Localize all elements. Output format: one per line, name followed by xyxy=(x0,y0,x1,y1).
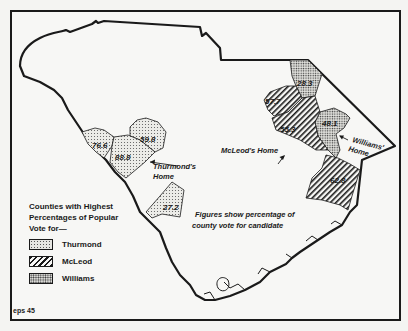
legend-label: Williams xyxy=(62,274,94,283)
legend-title: Counties with Highest Percentages of Pop… xyxy=(29,201,129,234)
light-stipple-swatch-icon xyxy=(29,239,53,250)
value-label: 55.3 xyxy=(280,125,296,134)
value-label: 62.8 xyxy=(330,176,346,185)
value-label: 88.8 xyxy=(115,153,131,162)
value-label: 76.6 xyxy=(92,141,108,150)
legend-item-thurmond: Thurmond xyxy=(29,237,129,251)
legend-item-mcleod: McLeod xyxy=(29,254,129,268)
value-label: 57.7 xyxy=(265,97,281,106)
value-label: 28.3 xyxy=(296,79,313,88)
value-label: 59.8 xyxy=(140,135,156,144)
figure-id: eps 45 xyxy=(13,307,35,314)
legend-label: Thurmond xyxy=(62,240,102,249)
legend-item-williams: Williams xyxy=(29,271,129,285)
figures-note: Figures show percentage of xyxy=(195,210,296,219)
map-legend: Counties with Highest Percentages of Pop… xyxy=(29,201,129,285)
legend-label: McLeod xyxy=(62,257,92,266)
value-label: 48.1 xyxy=(321,119,338,128)
thurmond-home-label: Thurmond's xyxy=(153,162,196,171)
figures-note: county vote for candidate xyxy=(192,221,283,230)
thurmond-home-label: Home xyxy=(153,172,174,181)
diagonal-hatch-swatch-icon xyxy=(29,256,53,267)
mcleod-home-label: McLeod's Home xyxy=(221,146,278,155)
value-label: 27.2 xyxy=(162,203,179,212)
dense-stipple-swatch-icon xyxy=(29,273,53,284)
